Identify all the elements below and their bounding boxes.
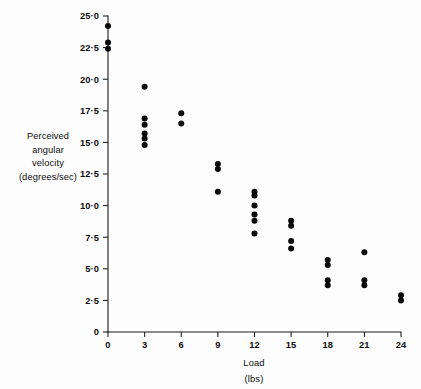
data-point [105, 23, 111, 29]
data-point [178, 110, 184, 116]
x-axis: 03691215182124 [105, 332, 407, 350]
data-point [142, 142, 148, 148]
data-point [178, 120, 184, 126]
y-tick-label: 20·0 [80, 75, 99, 85]
data-point [288, 238, 294, 244]
x-axis-title-units: (lbs) [245, 373, 264, 384]
y-tick-label: 17·5 [80, 106, 99, 116]
data-point [325, 282, 331, 288]
data-point [252, 211, 258, 217]
x-tick-label: 6 [179, 340, 184, 350]
x-tick-label: 0 [105, 340, 110, 350]
y-tick-label: 2·5 [85, 296, 99, 306]
y-axis: 02·55·07·510·012·515·017·520·022·525·0 [80, 11, 108, 337]
data-point [105, 46, 111, 52]
data-point [252, 203, 258, 209]
x-tick-label: 9 [215, 340, 220, 350]
data-point [252, 218, 258, 224]
x-tick-label: 18 [322, 340, 333, 350]
data-point [252, 230, 258, 236]
data-point [288, 223, 294, 229]
x-tick-label: 12 [249, 340, 260, 350]
plot-area: 02·55·07·510·012·515·017·520·022·525·0 0… [0, 0, 421, 389]
data-point [142, 115, 148, 121]
data-point [142, 84, 148, 90]
y-tick-label: 5·0 [85, 264, 99, 274]
scatter-chart-figure: Perceived angular velocity (degrees/sec)… [0, 0, 421, 389]
y-tick-label: 10·0 [80, 201, 99, 211]
x-tick-label: 24 [396, 340, 407, 350]
data-point [252, 192, 258, 198]
data-point [361, 249, 367, 255]
data-point [361, 282, 367, 288]
y-tick-label: 15·0 [80, 138, 99, 148]
y-tick-label: 0 [94, 327, 99, 337]
data-point [142, 122, 148, 128]
data-points [105, 23, 404, 303]
data-point [215, 166, 221, 172]
data-point [105, 40, 111, 46]
y-tick-label: 7·5 [85, 233, 99, 243]
x-axis-title: Load [243, 357, 264, 368]
data-point [288, 246, 294, 252]
data-point [142, 136, 148, 142]
x-tick-label: 21 [359, 340, 370, 350]
x-tick-label: 15 [286, 340, 297, 350]
y-tick-label: 22·5 [80, 43, 99, 53]
x-tick-label: 3 [142, 340, 147, 350]
data-point [325, 262, 331, 268]
y-tick-label: 25·0 [80, 11, 99, 21]
data-point [215, 189, 221, 195]
y-tick-label: 12·5 [80, 169, 99, 179]
data-point [398, 297, 404, 303]
